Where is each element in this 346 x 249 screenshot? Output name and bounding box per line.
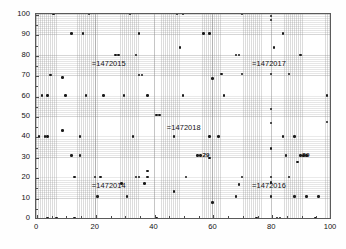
annot-1472017: =1472017 [252,60,286,68]
x-tick-label: 100 [324,223,337,231]
gridline-vertical [330,14,331,218]
x-tick-mark-minor [243,216,244,218]
x-tick-mark [37,215,38,218]
data-point [238,183,241,186]
data-point [223,94,226,97]
x-tick-mark-minor [52,216,53,218]
data-point [241,13,244,15]
gridline-horizontal [36,198,330,199]
x-tick-mark [272,215,273,218]
gridline-horizontal [36,177,330,178]
data-point [70,154,73,157]
data-point [282,32,285,35]
y-tick-label: 60 [22,92,30,100]
x-tick-mark-minor [199,216,200,218]
data-point [141,74,144,77]
x-tick-mark-minor [66,216,67,218]
data-point [173,135,176,138]
y-tick-label: 0 [26,214,30,222]
data-point [317,195,320,198]
data-point [235,54,238,57]
gridline-horizontal [36,34,330,35]
y-tick-mark [36,199,39,200]
y-tick-label: 30 [22,153,30,161]
data-point [132,135,135,138]
y-tick-mark-minor [36,107,38,108]
data-point [217,135,220,138]
data-point [61,76,64,79]
data-point [270,15,273,18]
x-tick-label: 60 [208,223,216,231]
data-point [182,94,185,97]
y-tick-mark [36,137,39,138]
x-tick-label: 0 [34,223,38,231]
y-tick-mark [36,76,39,77]
data-point [296,161,299,164]
x-tick-mark-minor [287,216,288,218]
scatter-plot-figure: =1472015=1472017=1472018=1472014=1472016… [0,0,346,249]
x-tick-mark-minor [302,216,303,218]
data-point [326,121,329,124]
x-tick-mark-minor [140,216,141,218]
data-point [49,74,52,77]
data-point [208,135,211,138]
y-tick-mark [36,97,39,98]
x-tick-mark [213,215,214,218]
data-point [82,32,85,35]
x-tick-mark-minor [81,216,82,218]
y-tick-label: 90 [22,30,30,38]
data-point [220,73,223,76]
data-point [279,217,282,219]
data-point [270,19,273,22]
annot-1472016: =1472016 [252,182,286,190]
data-point [238,54,241,57]
y-tick-label: 50 [22,112,30,120]
data-point [185,176,188,179]
data-point [293,195,296,198]
data-point [293,135,296,138]
data-point [273,46,276,49]
x-tick-mark [155,215,156,218]
y-tick-label: 70 [22,71,30,79]
gridline-vertical [36,14,37,218]
data-point [288,73,291,76]
data-point [155,217,158,219]
x-tick-mark-minor [169,216,170,218]
x-tick-mark-minor [111,216,112,218]
data-point [299,54,302,57]
data-point [79,154,82,157]
annot-29-mid: 29 [202,151,209,158]
data-point [73,217,76,219]
data-point [46,217,49,219]
x-tick-mark-minor [316,216,317,218]
data-point [138,32,141,35]
y-tick-mark [36,56,39,57]
data-point [270,195,273,198]
data-point [85,94,88,97]
data-point [126,195,129,198]
x-tick-mark-minor [184,216,185,218]
data-point [46,94,49,97]
x-tick-label: 80 [267,223,275,231]
data-point [88,13,91,15]
data-point [158,114,161,117]
data-point [146,94,149,97]
y-tick-label: 20 [22,173,30,181]
gridline-horizontal [36,75,330,76]
data-point [208,32,211,35]
data-point [146,170,149,173]
y-tick-mark [36,178,39,179]
data-point [143,182,146,185]
data-point [64,94,67,97]
annot-1472014: =1472014 [92,182,126,190]
gridline-vertical [154,14,155,218]
data-point [138,176,141,179]
y-tick-mark-minor [36,46,38,47]
gridline-vertical [212,14,213,218]
data-point [52,13,55,15]
data-point [102,94,105,97]
data-point [146,176,149,179]
y-tick-mark-minor [36,188,38,189]
data-point [241,73,244,76]
y-tick-mark-minor [36,209,38,210]
